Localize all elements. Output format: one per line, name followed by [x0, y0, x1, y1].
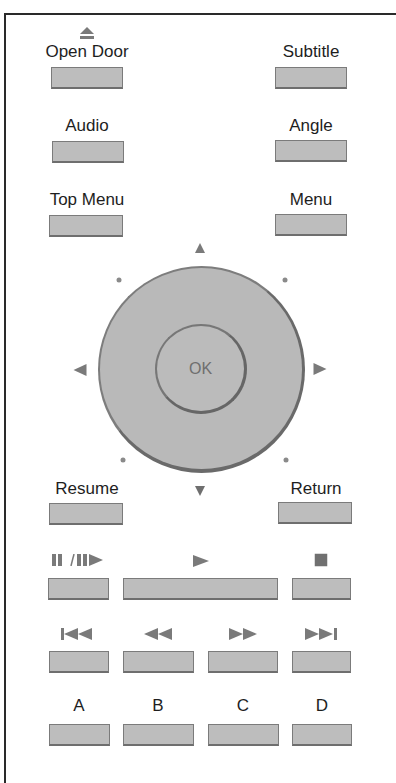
dpad-corner-dot: [284, 458, 289, 463]
stop-icon: [315, 554, 328, 567]
eject-icon: [80, 27, 94, 39]
angle-button[interactable]: [275, 140, 347, 162]
up-arrow-icon[interactable]: [195, 243, 205, 253]
b-label: B: [152, 696, 163, 716]
rewind-icon: [144, 628, 172, 640]
skip-next-button[interactable]: [292, 651, 351, 673]
dpad-corner-dot: [121, 458, 126, 463]
resume-button[interactable]: [49, 503, 123, 525]
skip-previous-icon: [61, 628, 95, 640]
top-menu-label: Top Menu: [50, 190, 125, 210]
subtitle-label: Subtitle: [283, 42, 340, 62]
c-label: C: [237, 696, 249, 716]
open-door-label: Open Door: [45, 42, 128, 62]
audio-label: Audio: [65, 116, 108, 136]
angle-label: Angle: [289, 116, 332, 136]
return-label: Return: [290, 479, 341, 499]
ok-button[interactable]: OK: [155, 324, 247, 414]
open-door-button[interactable]: [51, 67, 123, 89]
pause-step-button[interactable]: [48, 578, 109, 600]
top-menu-button[interactable]: [49, 215, 123, 237]
dpad-corner-dot: [117, 278, 122, 283]
left-arrow-icon[interactable]: [74, 364, 87, 376]
audio-button[interactable]: [52, 141, 124, 163]
play-icon: [193, 555, 209, 567]
stop-button[interactable]: [292, 578, 351, 600]
rewind-button[interactable]: [123, 651, 194, 673]
skip-previous-button[interactable]: [49, 651, 109, 673]
skip-next-icon: [305, 628, 339, 640]
subtitle-button[interactable]: [275, 67, 347, 89]
fast-forward-icon: [229, 628, 257, 640]
menu-label: Menu: [290, 190, 333, 210]
a-label: A: [73, 696, 84, 716]
dpad-corner-dot: [283, 278, 288, 283]
down-arrow-icon[interactable]: [195, 486, 205, 496]
ok-label: OK: [189, 360, 212, 378]
menu-button[interactable]: [275, 214, 347, 236]
play-button[interactable]: [123, 578, 278, 600]
d-button[interactable]: [292, 724, 352, 746]
return-button[interactable]: [278, 502, 352, 524]
c-button[interactable]: [208, 724, 279, 746]
fast-forward-button[interactable]: [208, 651, 278, 673]
pause-step-icon: [52, 554, 106, 566]
a-button[interactable]: [49, 724, 110, 746]
b-button[interactable]: [123, 724, 194, 746]
d-label: D: [316, 696, 328, 716]
right-arrow-icon[interactable]: [314, 363, 327, 375]
resume-label: Resume: [55, 479, 118, 499]
